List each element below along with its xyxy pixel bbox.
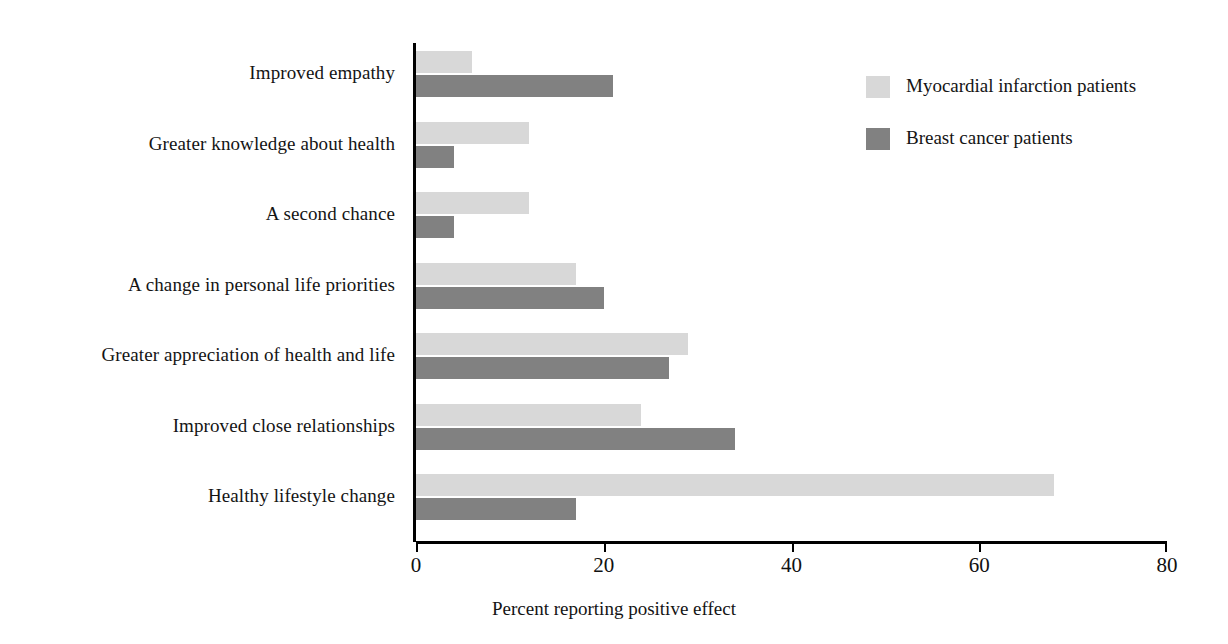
bar-series-a bbox=[416, 192, 529, 214]
category-label: Healthy lifestyle change bbox=[0, 485, 395, 507]
bar-series-a bbox=[416, 333, 688, 355]
bar-series-a bbox=[416, 122, 529, 144]
axis-tick-label: 20 bbox=[574, 553, 634, 577]
category-axis: Improved empathyGreater knowledge about … bbox=[0, 45, 405, 540]
category-label: Improved close relationships bbox=[0, 415, 395, 437]
bar-chart: Improved empathyGreater knowledge about … bbox=[0, 0, 1228, 644]
x-axis-title: Percent reporting positive effect bbox=[0, 598, 1228, 620]
axis-tick-label: 0 bbox=[386, 553, 446, 577]
bar-series-b bbox=[416, 216, 454, 238]
category-label: Improved empathy bbox=[0, 62, 395, 84]
bar-series-b bbox=[416, 146, 454, 168]
category-label: Greater knowledge about health bbox=[0, 133, 395, 155]
axis-tick-label: 60 bbox=[949, 553, 1009, 577]
bar-series-b bbox=[416, 357, 669, 379]
bar-series-b bbox=[416, 287, 604, 309]
category-label: A second chance bbox=[0, 203, 395, 225]
legend-label: Breast cancer patients bbox=[906, 126, 1073, 150]
axis-tick bbox=[792, 541, 794, 552]
bar-series-a bbox=[416, 404, 641, 426]
bar-series-b bbox=[416, 75, 613, 97]
bar-series-a bbox=[416, 474, 1054, 496]
legend-label: Myocardial infarction patients bbox=[906, 74, 1136, 98]
legend-swatch-series-b bbox=[866, 128, 890, 150]
legend-swatch-series-a bbox=[866, 76, 890, 98]
category-label: A change in personal life priorities bbox=[0, 274, 395, 296]
bar-series-a bbox=[416, 263, 576, 285]
value-axis: 020406080 bbox=[416, 541, 1176, 581]
bar-series-b bbox=[416, 498, 576, 520]
bar-series-a bbox=[416, 51, 472, 73]
chart-legend: Myocardial infarction patientsBreast can… bbox=[866, 74, 1226, 164]
axis-tick bbox=[604, 541, 606, 552]
axis-tick bbox=[1165, 541, 1167, 552]
axis-tick bbox=[416, 541, 418, 552]
axis-tick-label: 40 bbox=[762, 553, 822, 577]
axis-tick bbox=[979, 541, 981, 552]
bar-series-b bbox=[416, 428, 735, 450]
category-label: Greater appreciation of health and life bbox=[0, 344, 395, 366]
axis-tick-label: 80 bbox=[1137, 553, 1197, 577]
